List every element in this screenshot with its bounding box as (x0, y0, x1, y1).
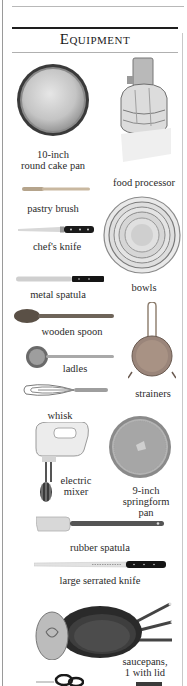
electric-mixer-label: electric (54, 475, 98, 486)
page-border-left (2, 0, 3, 686)
springform-label: 9-inch (116, 485, 176, 496)
cake-pan-label-line2: round cake pan (10, 160, 96, 171)
pastry-brush-label: pastry brush (18, 203, 88, 214)
rubber-spatula-icon (36, 515, 166, 533)
wooden-spoon-icon (14, 308, 114, 324)
bowls-icon (103, 196, 181, 274)
springform-label-line2: springform (110, 496, 182, 507)
electric-mixer-label-line2: mixer (54, 486, 98, 497)
page-border-right (182, 33, 183, 686)
whisk-icon (22, 382, 108, 398)
page-title: Equipment (12, 31, 178, 48)
food-processor-icon (113, 54, 175, 172)
top-divider (12, 6, 184, 7)
header-rule-top (12, 27, 178, 29)
chefs-knife-label: chef's knife (25, 241, 89, 252)
springform-pan-icon (108, 415, 172, 479)
wooden-spoon-label: wooden spoon (30, 326, 114, 337)
header-rule-bottom (12, 52, 178, 53)
partial-item-icon (136, 682, 162, 686)
strainer-icon (128, 302, 176, 382)
serrated-knife-icon (34, 560, 166, 569)
saucepans-icon (32, 594, 172, 660)
metal-spatula-label: metal spatula (22, 289, 94, 300)
saucepans-label-line2: 1 with lid (112, 667, 178, 678)
saucepans-label: saucepans, (112, 656, 178, 667)
cake-pan-label: 10-inch (15, 149, 91, 160)
food-processor-label: food processor (103, 177, 185, 188)
kitchen-scissors-icon (36, 674, 84, 686)
metal-spatula-icon (16, 275, 104, 283)
chefs-knife-icon (18, 225, 94, 234)
cake-pan-icon (15, 62, 91, 138)
rubber-spatula-label: rubber spatula (56, 542, 144, 553)
whisk-label: whisk (40, 410, 80, 421)
serrated-knife-label: large serrated knife (36, 575, 164, 586)
strainers-label: strainers (126, 388, 180, 399)
bowls-label: bowls (120, 282, 168, 293)
ladles-label: ladles (55, 363, 95, 374)
pastry-brush-icon (22, 186, 90, 192)
